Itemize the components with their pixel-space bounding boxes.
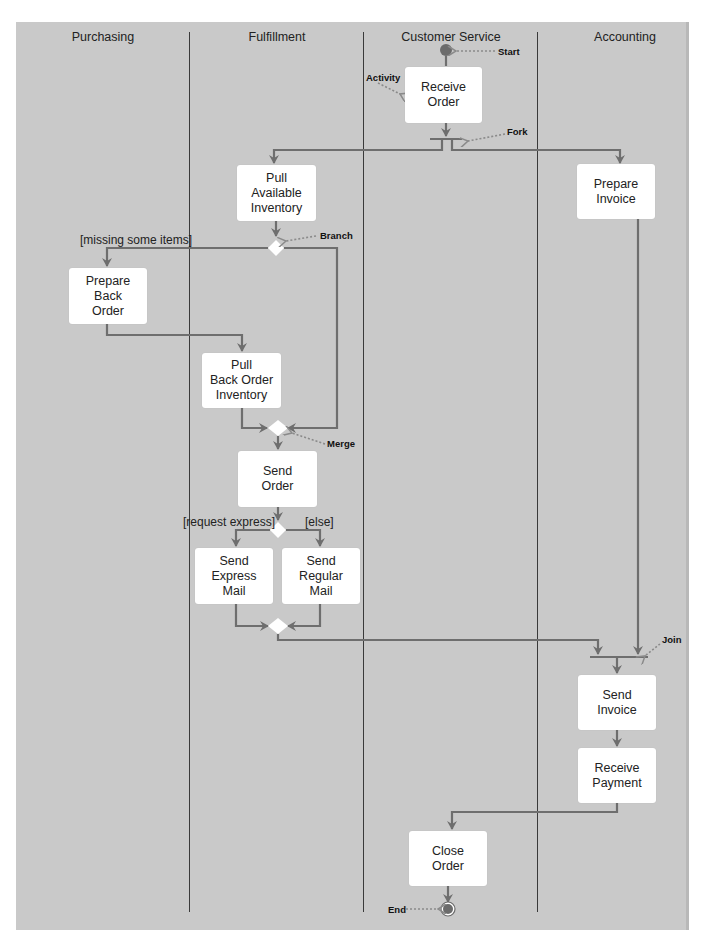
activity-send-invoice[interactable]: Send Invoice: [578, 675, 656, 730]
guard-missing-some-items: [missing some items]: [80, 233, 192, 247]
annotation-activity: Activity: [366, 72, 400, 83]
annotation-fork: Fork: [507, 126, 528, 137]
activity-send-order[interactable]: Send Order: [238, 451, 317, 507]
activity-send-express-mail[interactable]: Send Express Mail: [195, 548, 273, 604]
merge-diamond: [268, 420, 288, 436]
activity-close-order[interactable]: Close Order: [409, 831, 487, 886]
annotation-start: Start: [498, 46, 520, 57]
activity-pull-available-inventory[interactable]: Pull Available Inventory: [237, 165, 316, 221]
branch-diamond: [268, 240, 284, 256]
activity-prepare-back-order[interactable]: Prepare Back Order: [69, 268, 147, 324]
annotation-join: Join: [662, 634, 682, 645]
activity-receive-order[interactable]: Receive Order: [405, 67, 482, 123]
annotation-merge: Merge: [327, 438, 355, 449]
activity-send-regular-mail[interactable]: Send Regular Mail: [282, 548, 360, 604]
start-node: [440, 44, 452, 56]
activity-prepare-invoice[interactable]: Prepare Invoice: [577, 164, 655, 219]
guard-request-express: [request express]: [183, 515, 275, 529]
annotation-end: End: [388, 904, 406, 915]
guard-else: [else]: [305, 515, 334, 529]
mail-merge-diamond: [268, 618, 288, 634]
annotation-branch: Branch: [320, 230, 353, 241]
end-node-dot: [443, 904, 453, 914]
activity-pull-back-order-inventory[interactable]: Pull Back Order Inventory: [202, 353, 281, 408]
activity-receive-payment[interactable]: Receive Payment: [578, 748, 656, 803]
